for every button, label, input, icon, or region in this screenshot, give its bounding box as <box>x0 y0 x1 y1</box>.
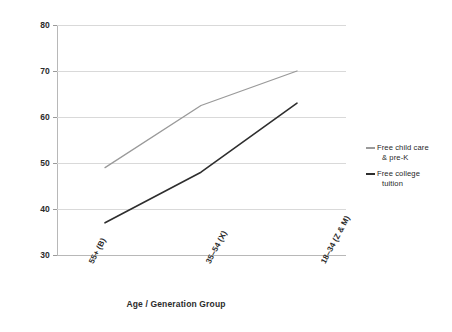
legend-swatch-free-college-tuition <box>366 173 375 175</box>
legend-swatch-free-child-care <box>366 147 375 149</box>
legend-item-free-college-tuition[interactable]: Free college tuition <box>366 169 452 188</box>
gridline-30: 30 <box>57 255 346 256</box>
legend-label-free-college-tuition-line1: Free college <box>377 169 420 178</box>
series-line-free-college-tuition <box>105 103 297 223</box>
legend-label-free-college-tuition: Free college tuition <box>377 169 420 188</box>
y-axis-label-70: 70 <box>40 66 50 76</box>
y-axis-label-30: 30 <box>40 250 50 260</box>
x-axis-title: Age / Generation Group <box>0 299 352 309</box>
y-axis-label-40: 40 <box>40 204 50 214</box>
y-axis-label-60: 60 <box>40 112 50 122</box>
legend-label-free-child-care: Free child care & pre-K <box>377 143 429 162</box>
y-axis-label-80: 80 <box>40 20 50 30</box>
legend-label-free-child-care-line1: Free child care <box>377 143 429 152</box>
legend-label-free-college-tuition-line2: tuition <box>377 179 420 189</box>
series-line-free-child-care <box>105 71 297 168</box>
y-tick-30 <box>53 255 57 256</box>
line-chart: 80 70 60 50 40 30 55+ (B) <box>0 0 452 332</box>
series-plot <box>57 25 345 255</box>
chart-legend: Free child care & pre-K Free college tui… <box>366 143 452 195</box>
legend-item-free-child-care[interactable]: Free child care & pre-K <box>366 143 452 162</box>
y-axis-label-50: 50 <box>40 158 50 168</box>
legend-label-free-child-care-line2: & pre-K <box>377 153 429 163</box>
plot-area: 80 70 60 50 40 30 55+ (B) <box>57 25 345 255</box>
